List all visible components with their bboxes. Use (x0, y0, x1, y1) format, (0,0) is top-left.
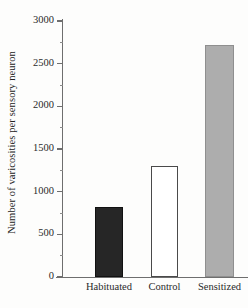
x-axis-label-habituated: Habituated (86, 281, 132, 293)
bar-sensitized (205, 45, 234, 277)
bar-habituated (95, 207, 123, 277)
x-axis-line (56, 277, 248, 278)
y-tick-label-2000: 2000 (6, 100, 54, 111)
y-tick-minor-1750 (60, 127, 64, 128)
y-tick-major-2000 (57, 106, 63, 107)
y-tick-label-0: 0 (6, 271, 54, 282)
y-tick-label-2500: 2500 (6, 58, 54, 69)
y-tick-minor-250 (60, 255, 64, 256)
y-tick-minor-2250 (60, 85, 64, 86)
bar-chart-figure: Number of varicosities per sensory neuro… (0, 0, 248, 308)
y-tick-major-2500 (57, 63, 63, 64)
y-tick-label-500: 500 (6, 228, 54, 239)
y-tick-major-500 (57, 234, 63, 235)
x-axis-label-control: Control (148, 281, 180, 293)
y-tick-major-3000 (57, 20, 63, 21)
y-tick-major-0 (57, 276, 63, 277)
x-axis-label-sensitized: Sensitized (198, 281, 241, 293)
y-tick-minor-750 (60, 213, 64, 214)
y-tick-label-1000: 1000 (6, 186, 54, 197)
y-tick-label-3000: 3000 (6, 15, 54, 26)
y-tick-major-1500 (57, 148, 63, 149)
y-tick-label-1500: 1500 (6, 143, 54, 154)
y-tick-minor-2750 (60, 42, 64, 43)
y-tick-minor-1250 (60, 170, 64, 171)
y-tick-major-1000 (57, 191, 63, 192)
bar-control (151, 166, 178, 277)
